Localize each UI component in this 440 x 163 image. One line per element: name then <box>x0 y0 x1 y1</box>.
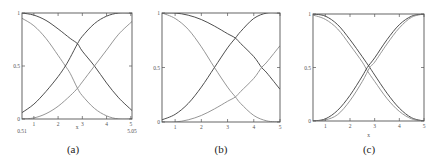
series-line-increasing-dark <box>313 14 424 121</box>
x-tick-label: 5 <box>279 124 282 130</box>
x-range-label: 0.51 <box>17 128 27 134</box>
series-line-increasing-light <box>22 21 132 119</box>
series-line-decreasing-light <box>313 15 424 121</box>
x-tick-label: 3 <box>81 121 84 127</box>
x-tick-label: 5 <box>129 121 132 127</box>
panel-b: 1234500.51(b) <box>153 10 282 156</box>
x-tick-label: 1 <box>32 121 35 127</box>
y-tick-label: 0 <box>308 118 311 124</box>
x-tick-label: 3 <box>226 124 229 130</box>
panel-caption: (b) <box>215 143 228 156</box>
x-axis-label: x <box>367 132 370 138</box>
y-tick-label: 1 <box>157 10 160 16</box>
series-line-decreasing-light <box>22 18 132 119</box>
x-tick-label: 2 <box>57 121 60 127</box>
x-range-label: 5.05 <box>127 128 137 134</box>
x-tick-label: 4 <box>252 124 255 130</box>
figure: 1234500.510.515.05x(a) 1234500.51(b) 123… <box>0 0 440 163</box>
x-tick-label: 3 <box>373 123 376 129</box>
y-tick-label: 1 <box>17 10 20 16</box>
x-tick-label: 5 <box>423 123 426 129</box>
x-tick-label: 4 <box>105 121 108 127</box>
x-tick-label: 1 <box>174 124 177 130</box>
panel-caption: (a) <box>67 143 80 156</box>
panel-c: 1234500.51x(c) <box>304 11 426 156</box>
x-tick-label: 1 <box>324 123 327 129</box>
axes-frame <box>313 14 424 121</box>
series-line-decreasing-dark <box>22 13 132 111</box>
series-line-increasing-light <box>313 14 424 121</box>
axes-frame <box>22 13 132 119</box>
series-line-increasing-dark <box>22 13 132 113</box>
series-line-decreasing-dark <box>313 14 424 121</box>
y-tick-label: 0 <box>157 119 160 125</box>
panel-a: 1234500.510.515.05x(a) <box>13 10 137 156</box>
y-tick-label: 0.5 <box>13 63 20 69</box>
y-tick-label: 0 <box>17 116 20 122</box>
x-tick-label: 2 <box>349 123 352 129</box>
panel-caption: (c) <box>363 143 376 156</box>
y-tick-label: 1 <box>308 11 311 17</box>
x-tick-label: 2 <box>200 124 203 130</box>
y-tick-label: 0.5 <box>153 65 160 71</box>
x-axis-label: x <box>76 124 79 130</box>
x-tick-label: 4 <box>398 123 401 129</box>
y-tick-label: 0.5 <box>304 65 311 71</box>
